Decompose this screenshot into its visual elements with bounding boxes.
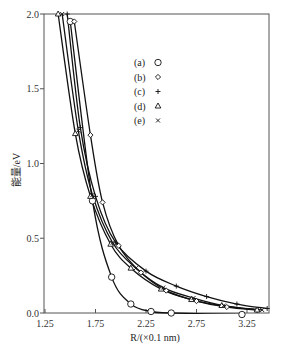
plus-marker	[204, 294, 209, 299]
curve-c	[67, 14, 267, 309]
plus-marker	[234, 302, 239, 307]
legend-label: (b)	[134, 72, 146, 84]
legend-label: (d)	[134, 101, 146, 113]
legend-label: (e)	[134, 115, 145, 127]
plot-frame	[44, 14, 269, 313]
plus-marker	[156, 89, 161, 94]
diamond-marker	[155, 74, 160, 79]
diamond-marker	[88, 132, 93, 137]
x-tick-label: 2.25	[137, 318, 155, 329]
curve-d	[58, 14, 257, 310]
energy-curve-chart: 0.00.51.01.52.0 1.251.752.252.753.25 (a)…	[0, 0, 281, 351]
triangle-marker	[155, 103, 161, 108]
curve-b	[74, 21, 257, 310]
plus-marker	[65, 12, 70, 17]
legend-label: (c)	[134, 86, 145, 98]
diamond-marker	[100, 200, 105, 205]
circle-marker	[128, 301, 134, 307]
legend: (a)(b)(c)(d)(e)	[134, 57, 161, 127]
plus-marker	[174, 284, 179, 289]
circle-marker	[108, 274, 114, 280]
circle-marker	[155, 59, 161, 65]
circle-marker	[168, 310, 174, 316]
y-tick-label: 2.0	[27, 9, 40, 20]
x-tick-label: 3.25	[238, 318, 256, 329]
cross-marker	[156, 119, 160, 123]
legend-label: (a)	[134, 57, 145, 69]
x-tick-label: 1.75	[87, 318, 105, 329]
x-axis-title: R/(×0.1 nm)	[130, 332, 180, 344]
curve-e	[62, 14, 262, 310]
y-tick-label: 1.5	[27, 83, 40, 94]
circle-marker	[148, 308, 154, 314]
data-series	[58, 14, 267, 314]
circle-marker	[239, 311, 245, 317]
y-axis: 0.00.51.01.52.0	[27, 9, 45, 319]
y-axis-title: 能量/eV	[10, 152, 22, 187]
y-tick-label: 1.0	[27, 158, 40, 169]
x-axis: 1.251.752.252.753.25	[36, 309, 256, 329]
cross-marker	[134, 266, 138, 270]
y-tick-label: 0.0	[27, 308, 40, 319]
y-tick-label: 0.5	[27, 233, 40, 244]
x-tick-label: 2.75	[188, 318, 206, 329]
x-tick-label: 1.25	[36, 318, 54, 329]
